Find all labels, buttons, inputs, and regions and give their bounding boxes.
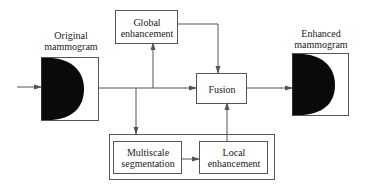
multiscale-line1: Multiscale: [121, 147, 174, 158]
enhanced-label-line1: Enhanced: [280, 28, 362, 39]
original-mammogram-image: [42, 58, 85, 120]
local-line1: Local: [208, 147, 261, 158]
original-label-line1: Original: [30, 30, 112, 41]
enhanced-label-line2: mammogram: [280, 39, 362, 50]
global-line2: enhancement: [121, 28, 174, 39]
multiscale-line2: segmentation: [121, 158, 174, 169]
global-line1: Global: [121, 17, 174, 28]
global-enhancement-text: Global enhancement: [116, 11, 178, 44]
enhanced-mammogram-label: Enhanced mammogram: [280, 28, 362, 50]
original-mammogram-label: Original mammogram: [30, 30, 112, 52]
original-label-line2: mammogram: [30, 41, 112, 52]
global-to-fusion-arrow: [177, 24, 218, 73]
local-enhancement-text: Local enhancement: [200, 142, 268, 174]
multiscale-segmentation-text: Multiscale segmentation: [114, 142, 182, 174]
fusion-text: Fusion: [197, 74, 247, 104]
local-line2: enhancement: [208, 158, 261, 169]
enhanced-mammogram-image: [293, 54, 336, 115]
